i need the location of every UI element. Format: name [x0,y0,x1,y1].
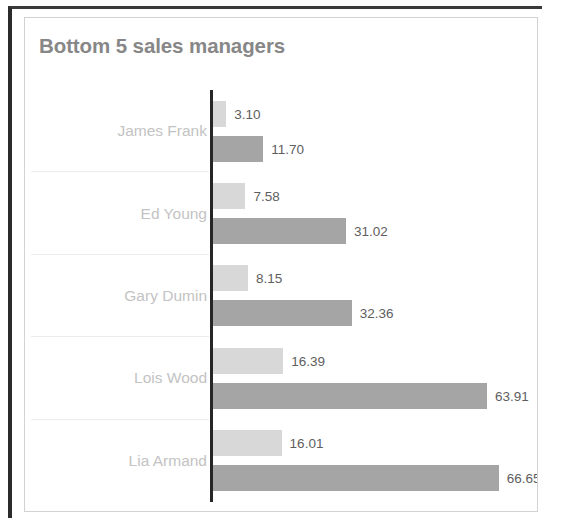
bar-row: 16.01 [213,430,362,456]
bar-series-2[interactable] [213,218,346,244]
bar-series-1[interactable] [213,265,248,291]
category-group: Lois Wood16.3963.91 [25,337,538,419]
bar-value-label: 63.91 [495,388,529,403]
bar-value-label: 32.36 [360,306,394,321]
bar-series-2[interactable] [213,383,487,409]
category-group: James Frank3.1011.70 [25,90,538,172]
bar-row: 7.58 [213,183,325,209]
bar-series-2[interactable] [213,465,499,491]
plot-area: James Frank3.1011.70Ed Young7.5831.02Gar… [25,90,538,502]
bar-row: 32.36 [213,300,432,326]
bar-series-1[interactable] [213,430,282,456]
bar-series-1[interactable] [213,101,226,127]
bar-row: 63.91 [213,383,538,409]
category-group: Gary Dumin8.1532.36 [25,255,538,337]
bar-value-label: 16.01 [290,436,324,451]
category-axis-label: James Frank [117,122,207,140]
chart-title: Bottom 5 sales managers [39,34,285,58]
bar-series-2[interactable] [213,136,263,162]
category-axis-label: Gary Dumin [124,287,207,305]
bar-value-label: 7.58 [253,189,279,204]
bar-series-1[interactable] [213,348,283,374]
category-axis-label: Lois Wood [134,369,207,387]
category-group: Ed Young7.5831.02 [25,172,538,254]
bar-value-label: 3.10 [234,106,260,121]
bar-row: 3.10 [213,101,306,127]
bar-value-label: 11.70 [271,141,304,156]
bar-row: 8.15 [213,265,328,291]
bar-value-label: 31.02 [354,224,388,239]
bar-row: 16.39 [213,348,363,374]
bar-row: 31.02 [213,218,426,244]
bar-row: 66.65 [213,465,538,491]
chart-outer-frame: Bottom 5 sales managers James Frank3.101… [8,6,542,518]
bar-row: 11.70 [213,136,343,162]
category-axis-label: Lia Armand [129,452,207,470]
category-group: Lia Armand16.0166.65 [25,420,538,502]
bar-series-2[interactable] [213,300,352,326]
category-axis-label: Ed Young [141,205,207,223]
bar-value-label: 66.65 [507,471,538,486]
bar-value-label: 16.39 [291,353,325,368]
bar-value-label: 8.15 [256,271,282,286]
bar-series-1[interactable] [213,183,245,209]
chart-panel: Bottom 5 sales managers James Frank3.101… [24,17,538,512]
